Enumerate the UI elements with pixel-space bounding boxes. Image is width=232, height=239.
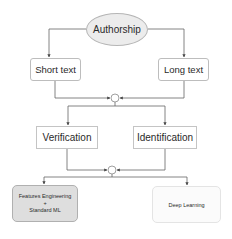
authorship-node: Authorship [86, 13, 148, 46]
edge-identification-junction [117, 149, 165, 170]
features-line2: + [43, 200, 46, 207]
authorship-label: Authorship [93, 24, 141, 35]
verification-label: Verification [43, 132, 92, 143]
deep-learning-label: Deep Learning [168, 202, 204, 208]
verification-node: Verification [36, 126, 98, 149]
junction-circle-1 [111, 94, 119, 102]
edge-verification-junction [67, 149, 107, 170]
edge-authorship-long [148, 29, 184, 57]
short-text-label: Short text [35, 64, 76, 75]
identification-label: Identification [137, 132, 193, 143]
features-line1: Features Engineering [19, 193, 72, 200]
edge-authorship-short [49, 29, 86, 57]
long-text-node: Long text [158, 58, 209, 81]
short-text-node: Short text [30, 58, 81, 81]
edge-long-junction [120, 81, 184, 98]
identification-node: Identification [133, 126, 197, 149]
deep-learning-node: Deep Learning [152, 186, 221, 223]
features-line3: Standard ML [29, 207, 61, 214]
edge-short-junction [55, 81, 110, 98]
features-engineering-node: Features Engineering + Standard ML [12, 185, 78, 222]
long-text-label: Long text [164, 64, 203, 75]
junction-circle-2 [108, 166, 116, 174]
